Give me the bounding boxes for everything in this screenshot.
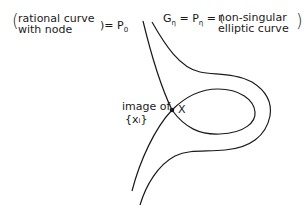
node-point [170,108,175,113]
left-label-stack: rational curve with node [18,13,94,35]
image-label: image of {xᵢ} [122,101,170,125]
right-label-line2: elliptic curve [218,23,289,34]
right-close-paren: ) [296,13,303,30]
right-label-stack: non-singular elliptic curve [218,12,289,34]
left-label-equals: )= P0 [100,20,128,36]
left-label-line2: with node [18,24,94,35]
image-label-line2: {xᵢ} [122,114,170,125]
right-label-equation: Gη = Pη = ( [163,13,224,29]
image-label-line1: image of [122,101,170,112]
node-label: X [178,104,186,115]
